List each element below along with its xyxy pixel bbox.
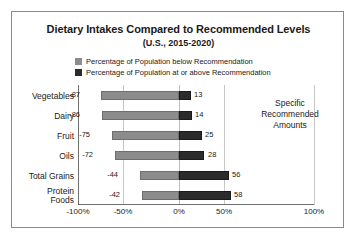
category-label-oils: Oils (12, 146, 74, 166)
value-label-oils-below: -72 (73, 150, 93, 159)
chart-frame: Dietary Intakes Compared to Recommended … (11, 11, 344, 228)
value-label-vegetables-above: 13 (194, 90, 202, 99)
x-tick-label-50: 50% (204, 207, 244, 216)
value-label-oils-above: 28 (208, 150, 216, 159)
bar-dairy-below (102, 111, 179, 120)
annotation-line-1: Specific (244, 98, 336, 109)
x-tick-label--100: -100% (58, 207, 98, 216)
bar-total-grains-below (140, 171, 179, 180)
bar-vegetables-below (101, 91, 179, 100)
table-row: Total Grains -44 56 (12, 166, 345, 186)
bar-total-grains-above (179, 171, 229, 180)
value-label-fruit-above: 25 (205, 130, 213, 139)
annotation-specific-recommended-amounts: Specific Recommended Amounts (244, 98, 336, 131)
bar-dairy-above (179, 111, 192, 120)
bar-fruit-above (179, 131, 202, 140)
bar-fruit-below (112, 131, 179, 140)
value-label-total-grains-below: -44 (98, 170, 118, 179)
bar-protein-foods-below (142, 191, 179, 200)
category-label-total-grains: Total Grains (12, 166, 74, 186)
category-label-protein-foods: Protein Foods (12, 186, 74, 206)
value-label-total-grains-above: 56 (232, 170, 240, 179)
x-tick-label-100: 100% (294, 207, 334, 216)
value-label-dairy-below: -86 (60, 110, 80, 119)
value-label-protein-foods-above: 58 (234, 190, 242, 199)
bar-oils-below (115, 151, 179, 160)
bar-vegetables-above (179, 91, 191, 100)
category-label-fruit: Fruit (12, 126, 74, 146)
annotation-line-3: Amounts (244, 120, 336, 131)
category-label-protein-line2: Foods (50, 196, 74, 205)
value-label-fruit-below: -75 (70, 130, 90, 139)
x-tick-label--50: -50% (103, 207, 143, 216)
table-row: Oils -72 28 (12, 146, 345, 166)
value-label-dairy-above: 14 (195, 110, 203, 119)
table-row: Protein Foods -42 58 (12, 186, 345, 206)
value-label-protein-foods-below: -42 (100, 190, 120, 199)
x-tick-label-0: 0% (159, 207, 199, 216)
bar-oils-above (179, 151, 204, 160)
annotation-line-2: Recommended (244, 109, 336, 120)
value-label-vegetables-below: -87 (60, 90, 80, 99)
bar-protein-foods-above (179, 191, 231, 200)
